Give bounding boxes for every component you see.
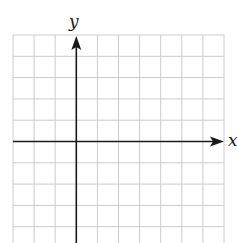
x-axis-label: x: [228, 132, 238, 149]
grid-lines: [13, 35, 224, 243]
y-axis-label: y: [69, 13, 79, 30]
grid-svg: [0, 0, 238, 243]
y-axis: [71, 36, 81, 243]
coordinate-plane: y x: [0, 0, 238, 243]
